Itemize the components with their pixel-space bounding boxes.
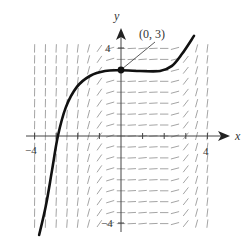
slope-segment — [67, 77, 68, 85]
slope-segment — [196, 143, 198, 151]
slope-segment — [67, 110, 68, 118]
slope-segment — [207, 219, 208, 227]
slope-segment — [97, 122, 102, 129]
slope-segment — [171, 47, 179, 49]
x-tick-label-4: 4 — [203, 145, 209, 157]
solution-curve — [39, 36, 194, 235]
slope-segment — [183, 220, 188, 227]
slope-segment — [171, 113, 179, 115]
slope-segment — [149, 212, 157, 213]
slope-segment — [106, 168, 114, 170]
slope-segment — [97, 187, 102, 194]
slope-segment — [196, 220, 198, 228]
x-tick-label-neg4: −4 — [25, 144, 37, 156]
slope-segment — [88, 143, 90, 151]
slope-segment — [97, 198, 102, 205]
slope-segment — [183, 155, 188, 162]
slope-segment — [77, 165, 78, 173]
slope-segment — [67, 198, 68, 206]
slope-segment — [67, 44, 68, 52]
slope-segment — [77, 55, 78, 63]
slope-segment — [171, 102, 179, 104]
slope-segment — [171, 91, 179, 93]
slope-segment — [138, 81, 146, 82]
slope-segment — [196, 187, 198, 195]
annotation-leader — [122, 42, 155, 69]
slope-segment — [171, 168, 179, 170]
slope-segment — [97, 111, 102, 118]
x-axis-label: x — [234, 129, 241, 143]
slope-segment — [128, 125, 136, 126]
slope-segment — [67, 143, 68, 151]
slope-segment — [183, 144, 188, 151]
slope-segment — [171, 157, 179, 159]
slope-segment — [138, 48, 146, 49]
slope-segment — [88, 176, 90, 184]
slope-segment — [149, 169, 157, 170]
slope-segment — [183, 111, 188, 118]
slope-segment — [138, 103, 146, 104]
slope-segment — [77, 187, 78, 195]
slope-segment — [183, 89, 188, 96]
slope-segment — [106, 113, 114, 115]
slope-segment — [196, 77, 198, 85]
slope-segment — [88, 220, 90, 228]
slope-segment — [67, 121, 68, 129]
slope-segment — [196, 209, 198, 217]
slope-segment — [171, 201, 179, 203]
slope-segment — [106, 179, 114, 181]
slope-segment — [183, 166, 188, 173]
slope-segment — [138, 223, 146, 224]
slope-segment — [97, 89, 102, 96]
slope-segment — [106, 124, 114, 126]
slope-segment — [196, 99, 198, 107]
slope-segment — [67, 154, 68, 162]
slope-segment — [138, 158, 146, 159]
slope-segment — [196, 55, 198, 63]
slope-segment — [128, 81, 136, 82]
slope-segment — [97, 165, 102, 172]
slope-segment — [171, 212, 179, 214]
slope-segment — [88, 99, 90, 107]
slope-segment — [88, 44, 90, 52]
slope-segment — [77, 66, 78, 74]
slope-segment — [149, 147, 157, 148]
slope-segment — [67, 219, 68, 227]
slope-segment — [67, 66, 68, 74]
slope-segment — [183, 56, 188, 63]
slope-segment — [77, 110, 78, 118]
slope-segment — [171, 80, 179, 82]
slope-segment — [171, 223, 179, 225]
slope-segment — [88, 198, 90, 206]
slope-segment — [106, 102, 114, 104]
slope-segment — [207, 165, 208, 173]
slope-segment — [183, 67, 188, 74]
slope-segment — [138, 114, 146, 115]
slope-segment — [207, 99, 208, 107]
slope-segment — [149, 191, 157, 192]
slope-segment — [106, 80, 114, 82]
slope-segment — [77, 143, 78, 151]
slope-segment — [138, 169, 146, 170]
slope-segment — [97, 144, 102, 151]
slope-segment — [88, 55, 90, 63]
slope-segment — [207, 44, 208, 52]
slope-segment — [183, 122, 188, 129]
y-tick-label-neg4: −4 — [101, 217, 113, 229]
slope-segment — [207, 176, 208, 184]
slope-segment — [77, 176, 78, 184]
slope-segment — [196, 88, 198, 96]
slope-segment — [67, 88, 68, 96]
slope-segment — [183, 187, 188, 194]
slope-segment — [77, 121, 78, 129]
slope-segment — [106, 157, 114, 159]
y-tick-label-4: 4 — [105, 42, 111, 54]
point-label: (0, 3) — [139, 27, 165, 41]
slope-segment — [196, 66, 198, 74]
slope-segment — [138, 147, 146, 148]
slope-segment — [88, 154, 90, 162]
slope-segment — [196, 44, 198, 52]
y-axis-label: y — [113, 9, 120, 23]
slope-segment — [97, 100, 102, 107]
slope-segment — [67, 176, 68, 184]
